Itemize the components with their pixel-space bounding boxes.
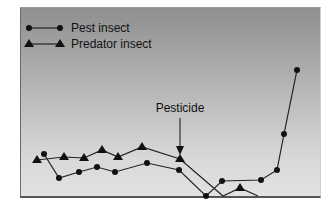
pesticide-annotation: Pesticide [156,101,205,155]
arrow-down-icon [176,146,184,155]
series-predator-insect [32,142,258,196]
data-point [32,155,42,163]
data-point [203,193,209,199]
data-point [176,167,182,173]
data-point [258,177,264,183]
legend-pest-marker [26,25,63,31]
data-point [274,167,280,173]
series-layer [32,67,300,199]
legend-pest-label: Pest insect [71,21,130,35]
data-point [41,151,47,157]
data-point [112,169,118,175]
data-point [56,175,62,181]
pesticide-label: Pesticide [156,101,205,115]
chart-plot: Pest insect Predator insect Pesticide [0,0,335,206]
data-point [97,145,107,153]
data-point [235,183,245,191]
legend-predator-label: Predator insect [71,37,152,51]
legend-predator-marker [24,39,65,47]
data-point [294,67,300,73]
data-point [59,152,69,160]
data-point [76,169,82,175]
series-pest-insect [41,67,300,199]
legend: Pest insect Predator insect [24,21,152,51]
data-point [144,160,150,166]
data-point [281,131,287,137]
data-point [94,164,100,170]
data-point [137,142,147,150]
data-point [219,178,225,184]
